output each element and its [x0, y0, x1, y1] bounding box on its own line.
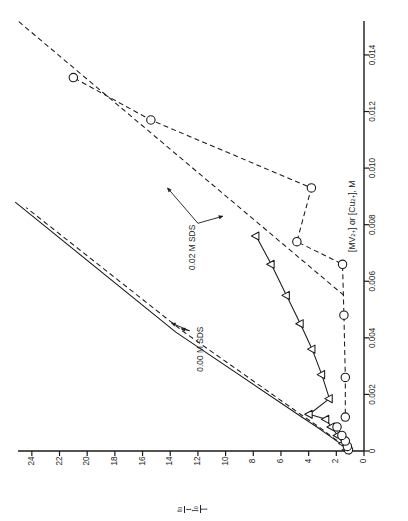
y-tick-label-9: 18	[110, 456, 119, 466]
y-tick-label-10: 20	[82, 456, 91, 466]
data-point-circle-3-10	[307, 184, 315, 192]
series-line-2	[256, 236, 347, 450]
annotation-arrowhead-0-1	[219, 216, 223, 219]
y-tick-label-11: 22	[55, 456, 64, 466]
y-tick-label-1: 2	[331, 458, 340, 463]
y-tick-label-8: 16	[138, 456, 147, 466]
data-point-circle-3-7	[340, 311, 348, 319]
figure-canvas: 00.0020.0040.0060.0080.0100.0120.0140246…	[0, 0, 408, 521]
data-point-triangle-2-4	[321, 415, 328, 423]
y-tick-label-0: 0	[359, 458, 368, 463]
y-tick-label-6: 12	[193, 456, 202, 466]
data-point-circle-3-11	[147, 116, 155, 124]
data-point-circle-3-3	[338, 431, 346, 439]
data-point-triangle-2-12	[251, 232, 258, 240]
annotation-0: 0.02 M SDS	[187, 224, 197, 270]
y-axis-intensity-denominator: I	[201, 505, 210, 513]
y-axis-title-second: I0 I	[192, 505, 210, 513]
annotation-arrowhead-1-0	[172, 323, 176, 326]
y-tick-label-7: 14	[165, 456, 174, 466]
stern-volmer-plot: 00.0020.0040.0060.0080.0100.0120.0140246…	[0, 0, 408, 521]
y-tick-label-3: 6	[276, 458, 285, 463]
series-line-4	[18, 21, 344, 295]
annotation-leader-0-0	[167, 188, 197, 223]
data-point-circle-3-4	[333, 423, 341, 431]
x-tick-label-5: 0.010	[368, 157, 377, 178]
x-tick-label-3: 0.006	[368, 271, 377, 292]
annotation-arrowhead-1-1	[181, 328, 185, 331]
y-tick-label-4: 8	[248, 458, 257, 463]
data-point-circle-3-8	[338, 260, 346, 268]
series-line-3	[73, 78, 348, 450]
x-tick-label-4: 0.008	[368, 214, 377, 235]
x-tick-label-1: 0.002	[368, 384, 377, 405]
y-tick-label-5: 10	[221, 456, 230, 466]
data-point-triangle-2-5	[305, 410, 312, 418]
annotation-1: 0.00 M SDS	[195, 326, 205, 372]
x-tick-label-2: 0.004	[368, 327, 377, 348]
x-axis-title-text: [MV2+] or [Cu2+], M	[347, 181, 357, 252]
data-point-circle-3-9	[293, 237, 301, 245]
data-point-circle-3-6	[341, 373, 349, 381]
y-tick-label-12: 24	[27, 456, 36, 466]
y-tick-label-2: 4	[304, 458, 313, 463]
data-point-circle-3-5	[341, 413, 349, 421]
x-tick-label-6: 0.012	[368, 101, 377, 122]
data-point-triangle-2-11	[267, 260, 274, 268]
data-point-circle-3-12	[69, 73, 77, 81]
x-tick-label-0: 0	[368, 448, 377, 453]
x-axis-title: [MV2+] or [Cu2+], M	[341, 132, 359, 252]
x-tick-label-7: 0.014	[368, 44, 377, 65]
